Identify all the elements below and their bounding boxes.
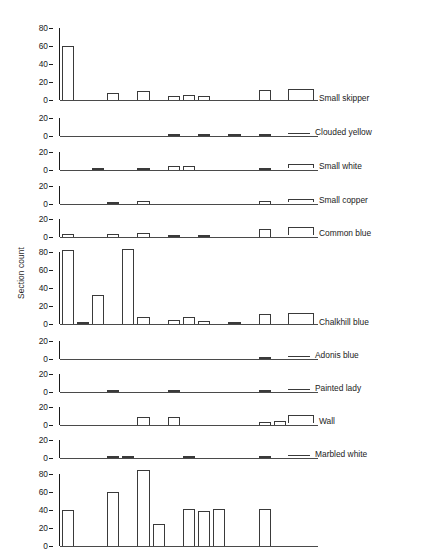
legend-species-name: Small white [319,162,362,171]
bar [137,168,149,170]
y-tick-mark [49,118,53,119]
bar [259,134,271,136]
y-tick-label: 20 [8,436,48,444]
bar [228,322,240,324]
panel-chalkhill-blue: 020406080Chalkhill blue [0,252,422,324]
bar [137,201,149,204]
legend-species-name: Wall [319,417,335,426]
y-tick-label: 20 [8,337,48,345]
legend-entry-painted-lady: Painted lady [288,381,361,390]
y-tick-mark [49,28,53,29]
legend-entry-adonis-blue: Adonis blue [288,348,359,357]
bar [183,456,195,458]
baseline [60,204,318,205]
bar [107,456,119,458]
bar [259,90,271,100]
bar [168,390,180,392]
legend-swatch [288,313,314,324]
y-axis: 020 [0,374,60,392]
y-tick-label: 20 [8,148,48,156]
legend-entry-wall: Wall [288,414,335,423]
legend-species-name: Adonis blue [315,351,359,360]
panel-small-skipper: 020406080Small skipper [0,28,422,100]
legend-species-name: Chalkhill blue [319,318,369,327]
y-tick-mark [49,252,53,253]
y-tick-mark [49,359,53,360]
y-tick-mark [49,374,53,375]
y-tick-label: 0 [8,454,48,462]
bar [153,524,165,546]
y-tick-label: 20 [8,215,48,223]
y-tick-label: 0 [8,542,48,550]
legend-swatch [288,415,314,423]
y-tick-label: 0 [8,200,48,208]
y-tick-mark [49,100,53,101]
y-tick-mark [49,392,53,393]
y-tick-label: 80 [8,24,48,32]
bar [77,322,89,324]
bar [92,295,104,324]
y-axis: 020406080 [0,474,60,546]
y-tick-label: 0 [8,388,48,396]
panel-small-copper: 020Small copper [0,186,422,204]
baseline [60,458,318,459]
y-tick-mark [49,204,53,205]
baseline [60,170,318,171]
panel-marbled-white: 020Marbled white [0,440,422,458]
y-tick-label: 0 [8,421,48,429]
y-axis: 020 [0,341,60,359]
plot-area [60,407,422,425]
legend-swatch [288,199,314,202]
y-tick-mark [49,440,53,441]
y-tick-label: 20 [8,302,48,310]
baseline [60,425,318,426]
plot-area [60,474,422,546]
y-tick-mark [49,474,53,475]
plot-area [60,152,422,170]
baseline [60,392,318,393]
y-tick-mark [49,136,53,137]
baseline [60,546,318,547]
baseline [60,237,318,238]
panel-clouded-yellow: 020Clouded yellow [0,118,422,136]
bar [198,511,210,546]
y-tick-label: 40 [8,284,48,292]
legend-swatch [288,227,314,235]
y-tick-label: 0 [8,355,48,363]
bar [62,234,74,237]
y-tick-label: 20 [8,524,48,532]
panel-adonis-blue: 020Adonis blue [0,341,422,359]
y-tick-mark [49,237,53,238]
y-tick-label: 60 [8,266,48,274]
bar [198,96,210,100]
bar [259,422,271,425]
y-tick-mark [49,152,53,153]
bar [168,417,180,425]
bar [137,317,149,324]
y-axis: 020 [0,440,60,458]
bar [168,96,180,100]
bar [259,201,271,204]
legend-species-name: Small skipper [319,94,369,103]
bar [183,166,195,170]
bar [259,456,271,458]
bar [183,509,195,546]
bar [137,417,149,425]
bar [107,234,119,237]
y-tick-mark [49,341,53,342]
legend-species-name: Painted lady [315,384,361,393]
bar [107,202,119,204]
bar [213,509,225,546]
bar [183,317,195,324]
bar [62,250,74,324]
bar [168,235,180,237]
y-axis: 020406080 [0,28,60,100]
legend-swatch [288,356,310,358]
legend-entry-common-blue: Common blue [288,226,371,235]
y-tick-label: 40 [8,506,48,514]
y-tick-label: 80 [8,470,48,478]
bar [92,168,104,170]
legend-swatch [288,133,310,135]
plot-area [60,341,422,359]
